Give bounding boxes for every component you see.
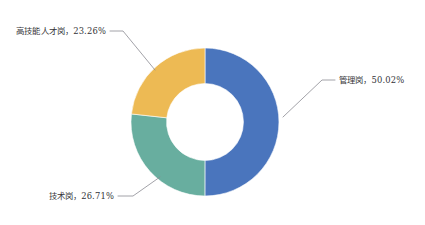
leader-line-high-skill-talent bbox=[110, 31, 155, 70]
donut-slices bbox=[131, 48, 279, 196]
slice-management[interactable] bbox=[205, 48, 279, 196]
donut-chart-canvas: 管理岗，50.02% 技术岗，26.71% 高技能人才岗，23.26% bbox=[0, 0, 425, 225]
leader-line-management bbox=[283, 80, 335, 117]
leader-line-technical bbox=[118, 177, 160, 196]
slice-high-skill-talent[interactable] bbox=[131, 48, 205, 118]
slice-label-management: 管理岗，50.02% bbox=[339, 75, 404, 85]
slice-label-technical: 技术岗，26.71% bbox=[49, 191, 114, 201]
slice-label-high-skill-talent: 高技能人才岗，23.26% bbox=[16, 26, 106, 36]
slice-technical[interactable] bbox=[131, 114, 205, 196]
donut-chart: 管理岗，50.02% 技术岗，26.71% 高技能人才岗，23.26% bbox=[0, 0, 425, 225]
